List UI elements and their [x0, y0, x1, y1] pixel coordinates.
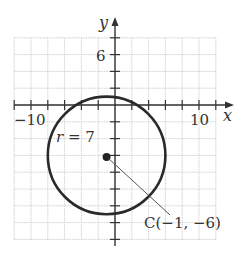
y-axis-arrow-icon [112, 17, 119, 26]
radius-label: r = 7 [56, 128, 95, 146]
y-axis-label: y [98, 13, 109, 32]
x-tick-label-10: 10 [190, 111, 209, 129]
radius-label-rest: = 7 [63, 128, 95, 146]
center-leader-line [108, 158, 170, 215]
coordinate-plane: x y −10 10 6 r = 7 C(−1, −6) [0, 0, 242, 256]
center-label: C(−1, −6) [144, 214, 221, 232]
x-axis-label: x [223, 106, 232, 125]
y-tick-label-6: 6 [96, 47, 106, 65]
x-tick-label-neg10: −10 [14, 111, 46, 129]
